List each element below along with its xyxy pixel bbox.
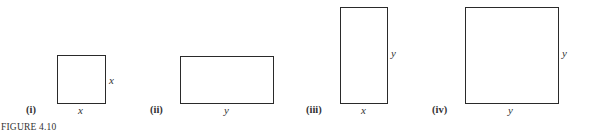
square-x-by-x xyxy=(57,55,106,104)
side-label-bottom: x xyxy=(361,105,366,116)
panel-label: (i) xyxy=(26,105,36,116)
side-label-right: x xyxy=(109,75,114,86)
side-label-bottom: x xyxy=(78,105,83,116)
side-label-bottom: y xyxy=(224,105,229,116)
side-label-right: y xyxy=(391,48,396,59)
figure-caption: FIGURE 4.10 xyxy=(1,123,57,133)
side-label-right: y xyxy=(562,48,567,59)
square-y-by-y xyxy=(465,7,559,104)
panel-label: (ii) xyxy=(150,105,163,116)
panel-label: (iii) xyxy=(306,105,322,116)
rectangle-y-by-x xyxy=(180,56,274,104)
panel-label: (iv) xyxy=(432,105,447,116)
side-label-bottom: y xyxy=(508,105,513,116)
rectangle-x-by-y xyxy=(340,7,388,104)
